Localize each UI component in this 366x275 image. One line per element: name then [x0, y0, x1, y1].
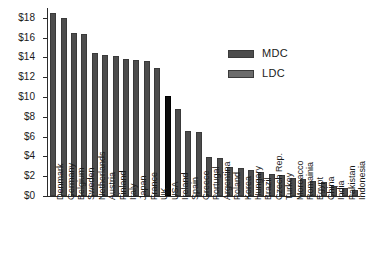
x-axis-tick-label: Moroacco: [296, 160, 305, 200]
x-label-slot: Ireland: [173, 198, 183, 275]
x-label-slot: Japan: [131, 198, 141, 275]
x-label-slot: USA: [162, 198, 172, 275]
x-label-slot: Brazil: [256, 198, 266, 275]
x-axis-tick-label: Portugal: [212, 166, 221, 200]
x-label-slot: India: [329, 198, 339, 275]
bar-slot: [131, 8, 141, 196]
x-label-slot: Finland: [110, 198, 120, 275]
x-axis-tick-label: Denmark: [56, 163, 65, 200]
x-label-slot: Austria: [100, 198, 110, 275]
chart-legend: MDC LDC: [228, 48, 288, 88]
bar-slot: [319, 8, 329, 196]
x-label-slot: Denmark: [48, 198, 58, 275]
x-label-slot: Romainia: [298, 198, 308, 275]
bar-slot: [173, 8, 183, 196]
x-label-slot: Czech Rep.: [267, 198, 277, 275]
x-label-slot: France: [142, 198, 152, 275]
bar-slot: [110, 8, 120, 196]
y-axis-tick-label: $2: [0, 171, 35, 181]
legend-label-ldc: LDC: [262, 68, 285, 79]
bar-slot: [235, 8, 245, 196]
x-axis-tick-label: Germany: [67, 163, 76, 200]
x-label-slot: Indonesia: [350, 198, 360, 275]
x-axis-tick-label: Japan: [139, 175, 148, 200]
y-axis-tick-label: $0: [0, 191, 35, 201]
bar-chart: $0$2$4$6$8$10$12$14$16$18 DenmarkGermany…: [0, 0, 366, 275]
y-axis-tick-label: $8: [0, 112, 35, 122]
x-axis-tick-label: Korea: [244, 176, 253, 200]
legend-swatch-mdc: [228, 50, 254, 58]
x-axis-tick-label: Indonesia: [358, 161, 366, 200]
x-axis-tick-label: Sweden: [87, 167, 96, 200]
x-label-slot: China: [319, 198, 329, 275]
x-axis-tick-label: Egypt: [316, 177, 325, 200]
bar-slot: [162, 8, 172, 196]
x-label-slot: Korea: [235, 198, 245, 275]
bar-slot: [183, 8, 193, 196]
bar-slot: [121, 8, 131, 196]
x-axis-tick-label: Turkey: [285, 173, 294, 200]
x-label-slot: Hungary: [246, 198, 256, 275]
bar-slot: [329, 8, 339, 196]
x-axis-tick-label: Netherlands: [98, 151, 107, 200]
y-axis-tick-label: $4: [0, 151, 35, 161]
x-label-slot: Pakistan: [339, 198, 349, 275]
x-label-slot: Italy: [121, 198, 131, 275]
x-axis-tick-label: Greece: [202, 170, 211, 200]
bar-slot: [142, 8, 152, 196]
x-axis-tick-label: Belgium: [77, 167, 86, 200]
x-label-slot: Portugal: [204, 198, 214, 275]
x-label-slot: Argentina: [215, 198, 225, 275]
x-label-slot: Moroacco: [287, 198, 297, 275]
x-label-slot: Egypt: [308, 198, 318, 275]
y-axis-tick-label: $16: [0, 33, 35, 43]
x-axis-tick-label: Poland: [233, 172, 242, 200]
y-axis-tick-label: $6: [0, 132, 35, 142]
x-label-slot: Netherlands: [90, 198, 100, 275]
x-axis-tick-label: Pakistan: [348, 165, 357, 200]
x-label-slot: Poland: [225, 198, 235, 275]
legend-item-ldc: LDC: [228, 68, 288, 79]
x-label-slot: Turkey: [277, 198, 287, 275]
legend-swatch-ldc: [228, 70, 254, 78]
bar-slot: [194, 8, 204, 196]
x-axis-tick-label: Spain: [191, 177, 200, 200]
x-axis-tick-label: Argentina: [223, 161, 232, 200]
x-axis-tick-label: Romainia: [306, 162, 315, 200]
y-axis-tick: [43, 196, 48, 197]
x-axis-tick-label: Brazil: [264, 177, 273, 200]
legend-item-mdc: MDC: [228, 48, 288, 59]
x-label-slot: Spain: [183, 198, 193, 275]
y-axis-tick-label: $10: [0, 92, 35, 102]
x-axis-tick-label: France: [150, 172, 159, 200]
x-axis-tick-label: Finland: [119, 170, 128, 200]
legend-label-mdc: MDC: [262, 48, 288, 59]
y-axis-tick-label: $18: [0, 13, 35, 23]
bar-slot: [152, 8, 162, 196]
x-label-slot: Sweden: [79, 198, 89, 275]
x-axis-tick-label: Austria: [108, 172, 117, 200]
y-axis-tick-label: $14: [0, 52, 35, 62]
x-axis-labels: DenmarkGermanyBelgiumSwedenNetherlandsAu…: [48, 198, 360, 275]
x-label-slot: Germany: [58, 198, 68, 275]
x-axis-tick-label: Czech Rep.: [275, 153, 284, 200]
x-axis-tick-label: China: [327, 176, 336, 200]
x-label-slot: Greece: [194, 198, 204, 275]
x-label-slot: UK: [152, 198, 162, 275]
x-axis-tick-label: Ireland: [181, 172, 190, 200]
x-label-slot: Belgium: [69, 198, 79, 275]
x-axis-tick-label: Hungary: [254, 166, 263, 200]
y-axis-tick-label: $12: [0, 72, 35, 82]
